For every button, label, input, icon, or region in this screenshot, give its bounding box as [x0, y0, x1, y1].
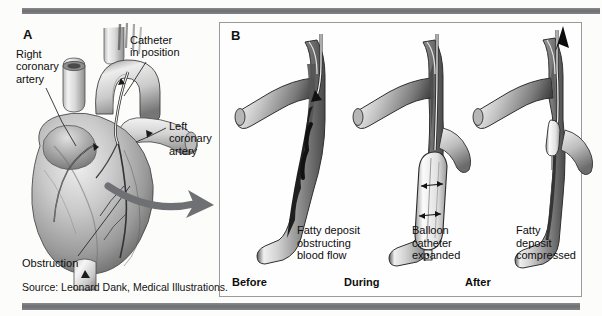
label-right-coronary-artery: Right coronary artery — [16, 48, 59, 85]
panel-a-letter: A — [23, 27, 32, 42]
caption-after: After — [465, 276, 491, 288]
description-during: Balloon catheter expanded — [412, 224, 460, 262]
label-obstruction: Obstruction — [22, 257, 78, 269]
label-catheter-in-position: Catheter in position — [130, 34, 180, 59]
top-divider-rule — [22, 8, 600, 14]
description-after: Fatty deposit compressed — [516, 224, 576, 262]
panel-b-letter: B — [231, 28, 240, 43]
label-left-coronary-artery: Left coronary artery — [169, 120, 212, 157]
medical-illustration-figure: A B Right coronary artery Catheter in po… — [0, 0, 602, 316]
source-credit: Source: Leonard Dank, Medical Illustrati… — [22, 281, 228, 293]
caption-before: Before — [232, 276, 267, 288]
bottom-divider-rule — [22, 303, 580, 310]
description-before: Fatty deposit obstructing blood flow — [297, 224, 360, 262]
caption-during: During — [344, 276, 379, 288]
